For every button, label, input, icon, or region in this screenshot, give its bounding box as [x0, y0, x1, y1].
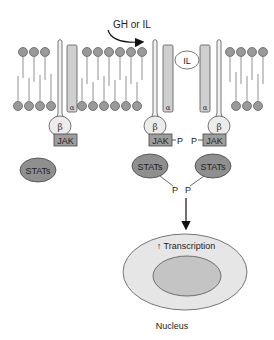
ligand-arrow	[108, 30, 142, 42]
beta-label: β	[216, 122, 221, 132]
jak-label: JAK	[152, 136, 169, 146]
nucleus: ↑ Transcription	[123, 234, 247, 310]
alpha-label: α	[203, 104, 208, 112]
nucleus-label: Nucleus	[156, 321, 189, 331]
stats-label: STATs	[137, 162, 163, 172]
jak-label: JAK	[57, 136, 74, 146]
alpha-subunit	[67, 45, 77, 112]
lipid-group-3	[226, 48, 268, 111]
jak-stat-diagram: GH or IL	[0, 0, 274, 340]
alpha-subunit	[200, 45, 210, 112]
beta-label: β	[57, 122, 62, 132]
alpha-label: α	[166, 104, 171, 112]
stats-label: STATs	[200, 162, 226, 172]
beta-subunit-stalk	[213, 40, 225, 120]
alpha-label: α	[70, 104, 75, 112]
beta-label: β	[152, 122, 157, 132]
cell-membrane	[14, 48, 268, 111]
phosphate-jak-left: P	[177, 136, 183, 146]
ligand-label: GH or IL	[113, 19, 151, 30]
phosphate-stats-left: P	[172, 185, 178, 195]
stats-label: STATs	[25, 166, 51, 176]
lipid-group-2	[78, 48, 147, 111]
transcription-label: ↑ Transcription	[157, 241, 216, 251]
nucleolus	[153, 256, 221, 296]
il-label: IL	[183, 56, 191, 66]
beta-subunit-stalk	[54, 40, 66, 120]
alpha-subunit	[163, 45, 173, 112]
phosphate-stats-right: P	[185, 185, 191, 195]
beta-subunit-stalk	[149, 40, 161, 120]
lipid-group-1	[14, 48, 56, 111]
phosphate-jak-right: P	[191, 136, 197, 146]
jak-label: JAK	[206, 136, 223, 146]
